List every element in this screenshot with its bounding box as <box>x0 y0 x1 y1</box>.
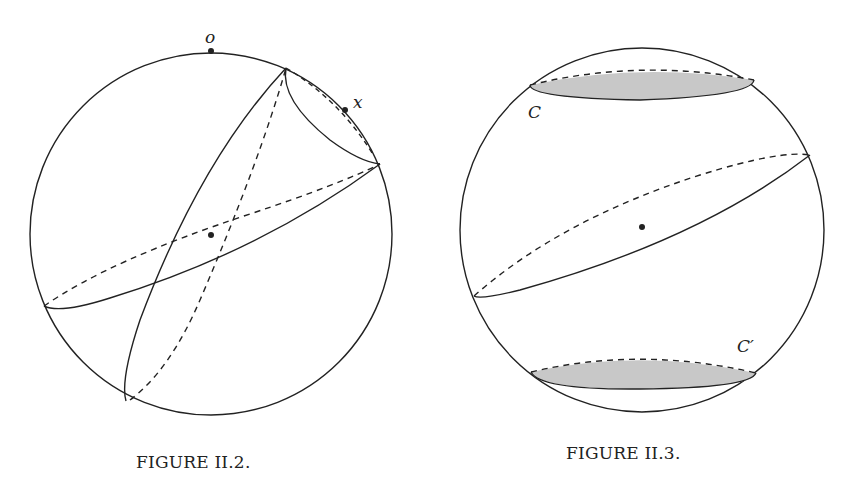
figure-ii-3 <box>460 48 824 412</box>
great-circle-2-back <box>130 68 286 400</box>
figure-ii-2 <box>30 48 392 415</box>
center-point <box>208 232 214 238</box>
great-circle-2-front <box>125 68 286 401</box>
caption-figure-ii-2: FIGURE II.2. <box>136 452 251 472</box>
label-c-prime: C′ <box>737 336 754 356</box>
point-o <box>208 48 214 54</box>
label-c: C <box>528 102 541 122</box>
label-x: x <box>353 92 363 112</box>
small-circle-front <box>285 68 380 164</box>
caption-figure-ii-3: FIGURE II.3. <box>566 443 681 463</box>
center-point <box>639 224 645 230</box>
point-x <box>342 107 348 113</box>
label-o: o <box>205 27 215 47</box>
small-circle-back <box>286 68 374 156</box>
figures-canvas: o x C C′ <box>0 0 848 492</box>
